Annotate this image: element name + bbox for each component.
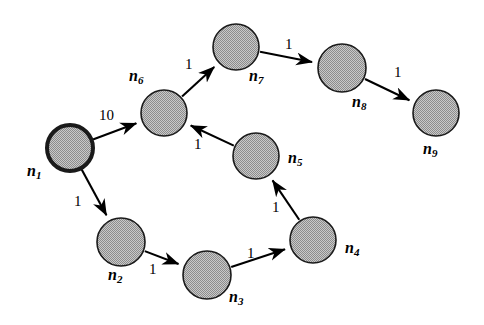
edge-weight-e-n8-n9: 1 — [394, 65, 402, 80]
graph-edge — [365, 79, 409, 100]
node-label-subscript: 5 — [297, 156, 303, 168]
node-label-base: n — [108, 266, 117, 283]
node-label-subscript: 6 — [138, 74, 144, 86]
node-label-base: n — [345, 239, 354, 256]
graph-edge — [231, 249, 285, 267]
edge-weight-e-n1-n2: 1 — [74, 194, 82, 209]
graph-canvas — [0, 0, 484, 325]
edge-weight-e-n4-n5: 1 — [272, 200, 280, 215]
edge-weight-e-n3-n4: 1 — [247, 246, 255, 261]
graph-node-n2 — [97, 218, 145, 266]
node-label-n5: n5 — [288, 150, 302, 166]
graph-node-n8 — [318, 44, 366, 92]
node-label-subscript: 4 — [354, 246, 360, 258]
node-label-subscript: 1 — [36, 169, 42, 181]
node-label-subscript: 9 — [432, 147, 438, 159]
graph-edge — [82, 170, 107, 216]
node-label-n4: n4 — [345, 240, 359, 256]
graph-edge — [93, 123, 136, 139]
node-label-n1: n1 — [27, 163, 41, 179]
graph-node-n7 — [213, 24, 259, 70]
node-label-base: n — [229, 288, 238, 305]
graph-node-n3 — [183, 251, 231, 299]
node-label-base: n — [27, 162, 36, 179]
edge-weight-e-n2-n3: 1 — [149, 262, 157, 277]
node-label-n7: n7 — [249, 68, 263, 84]
node-label-n2: n2 — [108, 267, 122, 283]
edge-weight-e-n5-n6: 1 — [194, 137, 202, 152]
node-label-subscript: 8 — [361, 100, 367, 112]
node-label-base: n — [423, 140, 432, 157]
graph-node-n5 — [233, 133, 279, 179]
graph-node-n1 — [47, 125, 93, 171]
node-label-base: n — [288, 149, 297, 166]
node-label-n6: n6 — [129, 68, 143, 84]
node-label-base: n — [129, 67, 138, 84]
graph-diagram: n1n2n3n4n5n6n7n8n91011111111 — [0, 0, 484, 325]
node-label-n9: n9 — [423, 141, 437, 157]
node-label-n3: n3 — [229, 289, 243, 305]
edge-weight-e-n6-n7: 1 — [185, 57, 193, 72]
node-label-subscript: 2 — [117, 273, 123, 285]
edge-weight-e-n1-n6: 10 — [99, 108, 114, 123]
node-label-subscript: 3 — [238, 295, 244, 307]
node-label-n8: n8 — [352, 94, 366, 110]
node-label-base: n — [249, 67, 258, 84]
graph-node-n4 — [290, 217, 336, 263]
graph-edge — [260, 52, 312, 62]
graph-node-n6 — [141, 90, 187, 136]
edge-weight-e-n7-n8: 1 — [285, 37, 293, 52]
node-label-base: n — [352, 93, 361, 110]
graph-node-n9 — [413, 90, 459, 136]
node-label-subscript: 7 — [258, 74, 264, 86]
